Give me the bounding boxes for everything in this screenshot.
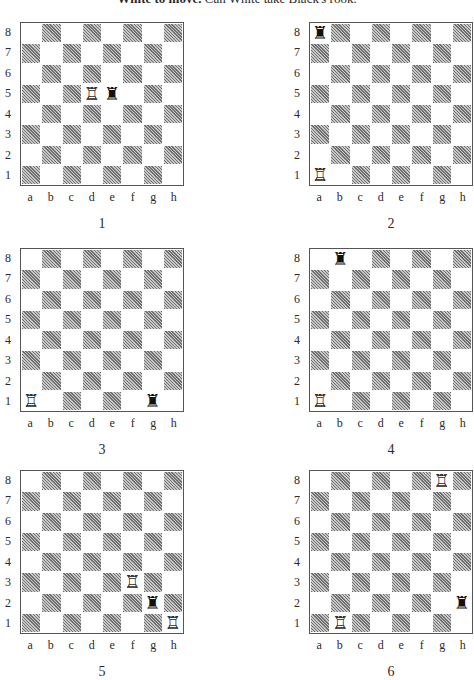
rank-label: 2: [291, 145, 303, 166]
square-a1: ♖: [21, 391, 41, 411]
square-b3: [41, 350, 61, 370]
square-h6: [163, 64, 183, 84]
file-label: a: [309, 416, 330, 432]
chessboard: ♜♖: [309, 248, 473, 412]
square-b4: [330, 104, 350, 124]
square-b7: [330, 491, 350, 511]
square-g3: [432, 350, 452, 370]
file-label: e: [391, 416, 412, 432]
rank-label: 7: [291, 43, 303, 64]
square-h3: [163, 350, 183, 370]
square-h1: [163, 391, 183, 411]
square-g5: [432, 84, 452, 104]
square-d5: [371, 532, 391, 552]
square-c4: [351, 552, 371, 572]
rank-label: 7: [291, 491, 303, 512]
square-b1: [330, 391, 350, 411]
file-label: f: [123, 190, 144, 206]
rank-label: 5: [291, 84, 303, 105]
rank-label: 6: [2, 511, 14, 532]
square-h1: [452, 165, 472, 185]
rank-label: 6: [291, 289, 303, 310]
rank-label: 1: [291, 392, 303, 413]
square-c7: [351, 269, 371, 289]
square-d4: [82, 552, 102, 572]
square-b6: [41, 290, 61, 310]
square-a8: [21, 471, 41, 491]
chess-diagram-6: 87654321♖♜♖abcdefgh6: [289, 470, 474, 680]
square-a5: [310, 84, 330, 104]
square-h1: [163, 165, 183, 185]
file-labels: abcdefgh: [309, 190, 473, 206]
square-d2: [371, 145, 391, 165]
file-label: b: [41, 638, 62, 654]
square-h6: [163, 290, 183, 310]
square-g8: [143, 249, 163, 269]
square-a2: [310, 593, 330, 613]
square-a6: [310, 64, 330, 84]
square-f5: [411, 532, 431, 552]
square-c6: [62, 290, 82, 310]
rank-label: 8: [2, 22, 14, 43]
square-g8: [143, 23, 163, 43]
rank-label: 7: [2, 269, 14, 290]
square-e2: [102, 371, 122, 391]
rank-label: 7: [2, 43, 14, 64]
heading-question: Can White take Black's rook.: [201, 0, 356, 6]
square-g7: [432, 269, 452, 289]
square-d8: [371, 23, 391, 43]
square-b3: [41, 124, 61, 144]
square-h1: [452, 391, 472, 411]
square-f2: [122, 371, 142, 391]
square-a6: [21, 290, 41, 310]
square-b1: [41, 391, 61, 411]
square-c4: [351, 104, 371, 124]
file-label: e: [391, 638, 412, 654]
square-b2: [330, 145, 350, 165]
square-a4: [21, 552, 41, 572]
square-a5: [21, 84, 41, 104]
square-c3: [351, 350, 371, 370]
square-b8: [41, 23, 61, 43]
square-b7: [41, 43, 61, 63]
rank-labels: 87654321: [2, 22, 14, 186]
square-b8: [330, 23, 350, 43]
rank-label: 3: [291, 125, 303, 146]
square-a8: ♜: [310, 23, 330, 43]
square-a8: [310, 249, 330, 269]
square-d5: [82, 532, 102, 552]
rank-label: 8: [2, 470, 14, 491]
square-d2: [82, 593, 102, 613]
square-b8: ♜: [330, 249, 350, 269]
file-labels: abcdefgh: [20, 190, 184, 206]
square-c6: [351, 512, 371, 532]
square-g7: [143, 269, 163, 289]
rank-label: 1: [291, 614, 303, 635]
square-h5: [163, 310, 183, 330]
rank-label: 5: [2, 532, 14, 553]
square-d6: [82, 64, 102, 84]
black-rook-icon: ♜: [145, 392, 161, 410]
square-c4: [62, 104, 82, 124]
square-f8: [411, 249, 431, 269]
square-g2: ♜: [143, 593, 163, 613]
square-f7: [411, 269, 431, 289]
square-b6: [330, 64, 350, 84]
square-g6: [143, 64, 163, 84]
square-h4: [452, 104, 472, 124]
square-e8: [102, 23, 122, 43]
square-h5: [452, 532, 472, 552]
square-e7: [391, 269, 411, 289]
square-h6: [163, 512, 183, 532]
square-d7: [371, 491, 391, 511]
square-d6: [82, 290, 102, 310]
square-f1: [411, 165, 431, 185]
file-label: e: [391, 190, 412, 206]
square-b1: [330, 165, 350, 185]
square-h4: [452, 330, 472, 350]
rank-label: 6: [2, 63, 14, 84]
diagram-caption: 6: [309, 664, 473, 680]
square-g5: [143, 532, 163, 552]
white-rook-icon: ♖: [434, 472, 450, 490]
rank-label: 3: [291, 573, 303, 594]
